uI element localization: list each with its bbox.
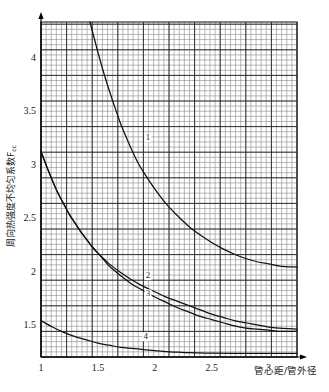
x-tick-label: 2.5: [205, 362, 218, 373]
x-tick-labels: 11.522.53: [39, 362, 272, 373]
y-tick-label: 2: [31, 266, 36, 277]
chart-canvas: 11.522.53 1.522.533.54 1234: [0, 0, 329, 392]
x-tick-label: 1: [39, 362, 44, 373]
curve-label-1: 1: [146, 132, 151, 142]
y-tick-label: 1.5: [24, 319, 37, 330]
x-tick-label: 1.5: [92, 362, 105, 373]
x-axis-title: 管心距/管外径: [254, 363, 317, 377]
axis-lines: [38, 12, 307, 360]
y-axis-title-wrap: 周向热强度不均匀系数Fcc: [2, 96, 18, 296]
y-tick-label: 3: [31, 159, 36, 170]
curve-1: [90, 22, 297, 267]
y-tick-label: 2.5: [24, 212, 37, 223]
y-axis-title-text: 周向热强度不均匀系数F: [6, 152, 16, 247]
y-axis-title: 周向热强度不均匀系数Fcc: [4, 145, 17, 247]
y-tick-label: 3.5: [24, 105, 37, 116]
y-tick-labels: 1.522.533.54: [24, 52, 37, 331]
y-tick-label: 4: [31, 52, 36, 63]
curve-label-3: 3: [146, 288, 151, 298]
chart-figure: 11.522.53 1.522.533.54 1234 周向热强度不均匀系数Fc…: [0, 0, 329, 392]
curve-label-4: 4: [143, 331, 148, 341]
curve-label-2: 2: [146, 270, 151, 280]
y-axis-title-subscript: cc: [10, 145, 17, 152]
major-gridlines: [41, 22, 297, 357]
x-tick-label: 2: [152, 362, 157, 373]
